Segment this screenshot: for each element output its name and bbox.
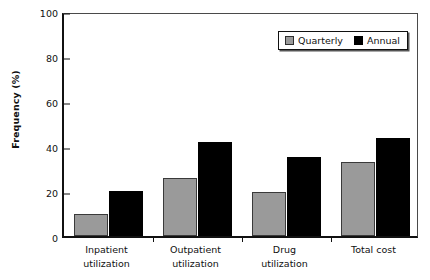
category-label-line: Outpatient (170, 243, 221, 257)
quarterly-swatch-icon (285, 36, 294, 45)
y-axis-tick-label: 80 (32, 54, 58, 64)
legend-label: Quarterly (298, 35, 343, 46)
bar-annual-0 (109, 191, 143, 236)
x-axis-category-label: Outpatientutilization (170, 243, 221, 270)
bar-annual-3 (376, 138, 410, 236)
legend-label: Annual (367, 35, 400, 46)
x-axis-category-labels: InpatientutilizationOutpatientutilizatio… (62, 243, 418, 280)
bar-quarterly-2 (252, 192, 286, 236)
annual-swatch-icon (354, 36, 363, 45)
y-axis-tick-label: 20 (32, 189, 58, 199)
legend-entry-annual: Annual (354, 35, 400, 46)
category-label-line: Total cost (351, 243, 396, 257)
y-axis-tick-label: 60 (32, 99, 58, 109)
x-axis-tick-mark (153, 236, 154, 242)
x-axis-category-label: Total cost (351, 243, 396, 257)
legend-entry-quarterly: Quarterly (285, 35, 343, 46)
category-label-line: utilization (261, 257, 308, 271)
x-axis-category-label: Inpatientutilization (83, 243, 130, 270)
category-label-line: utilization (170, 257, 221, 271)
x-axis-tick-mark (242, 236, 243, 242)
category-label-line: utilization (83, 257, 130, 271)
x-axis-category-label: Drugutilization (261, 243, 308, 270)
bar-annual-2 (287, 157, 321, 236)
category-label-line: Inpatient (83, 243, 130, 257)
bar-quarterly-3 (341, 162, 375, 236)
bar-quarterly-1 (163, 178, 197, 237)
bar-quarterly-0 (74, 214, 108, 237)
y-axis-tick-label: 100 (32, 9, 58, 19)
y-axis-tick-label: 40 (32, 144, 58, 154)
chart-legend: QuarterlyAnnual (278, 31, 408, 50)
category-label-line: Drug (261, 243, 308, 257)
y-axis-title: Frequency (%) (10, 40, 21, 180)
bar-chart-figure: Frequency (%) 020406080100 Inpatientutil… (0, 0, 430, 280)
y-axis-tick-label: 0 (32, 234, 58, 244)
bar-annual-1 (198, 142, 232, 237)
x-axis-tick-mark (331, 236, 332, 242)
